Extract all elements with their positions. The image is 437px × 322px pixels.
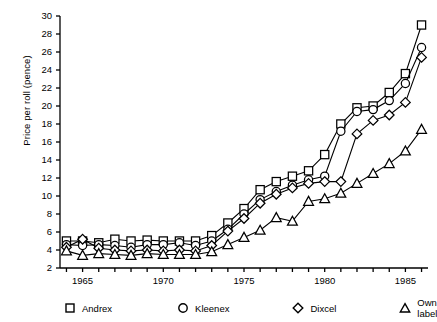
legend-label-own-label: Own label bbox=[417, 297, 437, 319]
y-axis-tick-label: 6 bbox=[47, 226, 52, 237]
square-data-point bbox=[288, 172, 296, 180]
triangle-data-point bbox=[401, 146, 411, 155]
triangle-data-point bbox=[384, 159, 394, 168]
circle-marker-icon bbox=[176, 301, 190, 315]
y-axis-tick-label: 26 bbox=[41, 46, 52, 57]
legend-label-andrex: Andrex bbox=[82, 303, 112, 314]
circle-data-point bbox=[369, 106, 377, 114]
y-axis-tick-label: 30 bbox=[41, 10, 52, 21]
x-axis-tick-label: 1970 bbox=[153, 275, 174, 286]
circle-data-point bbox=[401, 79, 409, 87]
x-axis-tick-label: 1985 bbox=[395, 275, 416, 286]
legend-label-kleenex: Kleenex bbox=[195, 303, 229, 314]
y-axis-tick-label: 10 bbox=[41, 190, 52, 201]
square-marker-icon bbox=[63, 301, 77, 315]
diamond-data-point bbox=[384, 110, 394, 120]
legend-label-dixcel: Dixcel bbox=[310, 303, 336, 314]
legend-item-andrex[interactable]: Andrex bbox=[63, 298, 112, 318]
chart-legend: Andrex Kleenex Dixcel O bbox=[0, 298, 433, 318]
x-axis-tick-label: 1965 bbox=[72, 275, 93, 286]
triangle-data-point bbox=[352, 178, 362, 187]
triangle-marker-icon bbox=[398, 301, 412, 315]
circle-data-point bbox=[353, 107, 361, 115]
circle-data-point bbox=[385, 97, 393, 105]
triangle-data-point bbox=[271, 213, 281, 222]
y-axis-tick-label: 8 bbox=[47, 208, 52, 219]
diamond-data-point bbox=[336, 177, 346, 187]
x-axis-tick-label: 1980 bbox=[314, 275, 335, 286]
y-axis-tick-label: 28 bbox=[41, 28, 52, 39]
triangle-data-point bbox=[239, 232, 249, 241]
square-data-point bbox=[417, 21, 425, 29]
circle-data-point bbox=[417, 43, 425, 51]
legend-item-dixcel[interactable]: Dixcel bbox=[291, 298, 336, 318]
series-dixcel bbox=[62, 53, 427, 256]
y-axis-tick-label: 24 bbox=[41, 64, 52, 75]
triangle-data-point bbox=[255, 225, 265, 234]
y-axis-tick-label: 2 bbox=[47, 262, 52, 273]
square-data-point bbox=[385, 88, 393, 96]
square-data-point bbox=[304, 167, 312, 175]
y-axis-tick-label: 12 bbox=[41, 172, 52, 183]
square-data-point bbox=[256, 186, 264, 194]
triangle-data-point bbox=[336, 188, 346, 197]
diamond-data-point bbox=[401, 98, 411, 108]
circle-data-point bbox=[337, 127, 345, 135]
y-axis-tick-label: 22 bbox=[41, 82, 52, 93]
square-data-point bbox=[321, 151, 329, 159]
square-data-point bbox=[272, 178, 280, 186]
triangle-data-point bbox=[417, 124, 427, 133]
triangle-data-point bbox=[368, 169, 378, 178]
diamond-marker-icon bbox=[291, 301, 305, 315]
y-axis-tick-label: 14 bbox=[41, 154, 52, 165]
legend-item-kleenex[interactable]: Kleenex bbox=[176, 298, 229, 318]
legend-item-own-label[interactable]: Own label bbox=[398, 298, 437, 318]
y-axis-tick-label: 16 bbox=[41, 136, 52, 147]
y-axis-tick-label: 18 bbox=[41, 118, 52, 129]
triangle-data-point bbox=[320, 194, 330, 203]
y-axis-tick-label: 4 bbox=[47, 244, 52, 255]
triangle-data-point bbox=[207, 247, 217, 256]
triangle-data-point bbox=[223, 240, 233, 249]
y-axis-tick-label: 20 bbox=[41, 100, 52, 111]
x-axis-tick-label: 1975 bbox=[233, 275, 254, 286]
